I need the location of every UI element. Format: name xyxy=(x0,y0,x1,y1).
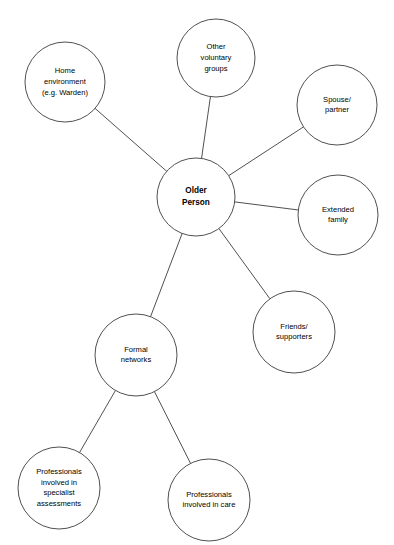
node-label-line: (e.g. Warden) xyxy=(42,88,89,97)
node-label-line: groups xyxy=(204,64,227,73)
node-label-line: family xyxy=(328,215,348,224)
node-label-line: involved in xyxy=(41,478,77,487)
node-formal-networks[interactable]: Formalnetworks xyxy=(95,314,177,396)
node-label-line: networks xyxy=(121,355,152,364)
node-label-spouse-partner: Spouse/partner xyxy=(323,95,352,115)
edge-older-person-other-voluntary-groups xyxy=(202,97,211,159)
node-friends-supporters[interactable]: Friends/supporters xyxy=(253,291,335,373)
node-label-line: Home xyxy=(55,66,75,75)
edge-older-person-spouse-partner xyxy=(229,127,304,176)
node-other-voluntary-groups[interactable]: Othervoluntarygroups xyxy=(177,19,255,97)
node-label-line: assessments xyxy=(37,499,82,508)
node-label-line: Professionals xyxy=(36,467,82,476)
edge-layer xyxy=(80,97,304,464)
node-label-friends-supporters: Friends/supporters xyxy=(276,322,312,342)
node-label-line: involved in care xyxy=(183,500,236,509)
edge-formal-networks-professionals-involved-in-care xyxy=(154,392,190,464)
node-professionals-specialist-assessments[interactable]: Professionalsinvolved inspecialistassess… xyxy=(18,447,100,529)
node-label-line: supporters xyxy=(276,332,312,341)
node-label-formal-networks: Formalnetworks xyxy=(121,345,152,365)
node-older-person[interactable]: OlderPerson xyxy=(157,158,235,236)
node-label-line: Friends/ xyxy=(280,322,308,331)
edge-older-person-home-environment xyxy=(95,108,167,171)
node-spouse-partner[interactable]: Spouse/partner xyxy=(297,65,377,145)
node-label-line: Person xyxy=(182,198,210,207)
node-professionals-involved-in-care[interactable]: Professionalsinvolved in care xyxy=(168,459,250,541)
edge-older-person-friends-supporters xyxy=(219,229,270,299)
network-diagram-canvas: OlderPersonHomeenvironment(e.g. Warden)O… xyxy=(0,0,394,545)
node-label-line: Professionals xyxy=(186,490,232,499)
node-label-line: Spouse/ xyxy=(323,95,352,104)
network-diagram: OlderPersonHomeenvironment(e.g. Warden)O… xyxy=(0,0,394,545)
node-home-environment[interactable]: Homeenvironment(e.g. Warden) xyxy=(25,42,105,122)
node-layer: OlderPersonHomeenvironment(e.g. Warden)O… xyxy=(18,19,378,541)
node-label-line: environment xyxy=(44,77,87,86)
node-label-line: voluntary xyxy=(201,53,232,62)
node-label-professionals-involved-in-care: Professionalsinvolved in care xyxy=(183,490,236,510)
node-label-line: Other xyxy=(207,42,226,51)
node-extended-family[interactable]: Extendedfamily xyxy=(298,175,378,255)
node-label-line: Older xyxy=(185,187,207,196)
node-label-line: partner xyxy=(325,105,350,114)
node-label-line: Formal xyxy=(124,345,148,354)
edge-formal-networks-professionals-specialist-assessments xyxy=(80,390,116,452)
edge-older-person-formal-networks xyxy=(151,233,183,316)
edge-older-person-extended-family xyxy=(235,202,299,210)
node-label-line: Extended xyxy=(322,205,354,214)
node-label-line: specialist xyxy=(43,488,75,497)
